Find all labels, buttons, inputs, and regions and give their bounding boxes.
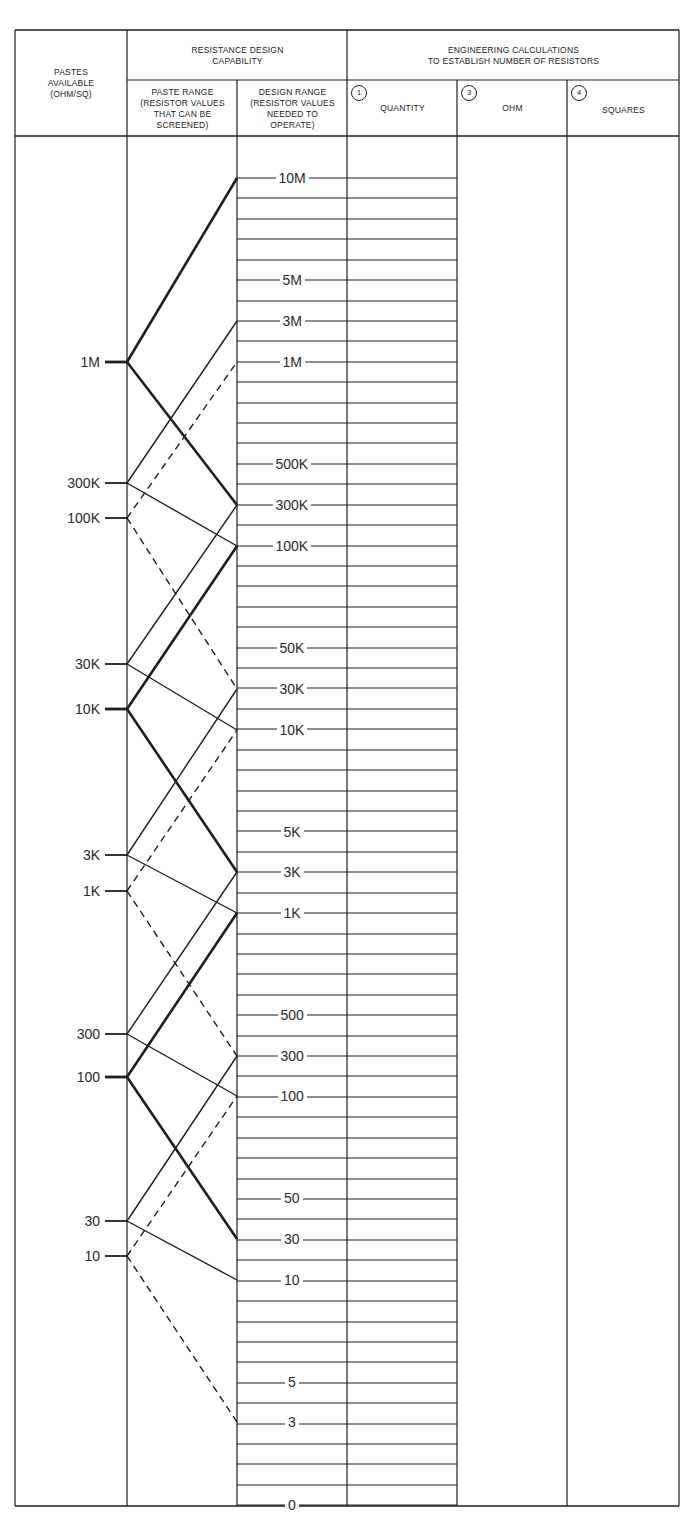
design-range-label: 3: [285, 1414, 299, 1430]
header-design-range-text: DESIGN RANGE (RESISTOR VALUES NEEDED TO …: [250, 87, 335, 131]
range-line-thin: [127, 1221, 237, 1280]
range-line-dashed: [127, 891, 237, 1056]
range-line-thin: [127, 1056, 237, 1221]
design-range-label: 3K: [281, 864, 304, 880]
design-range-label: 5M: [280, 272, 305, 288]
column-squares-label: SQUARES: [568, 105, 679, 116]
range-line-thin: [127, 1034, 237, 1096]
range-line-bold: [127, 362, 237, 505]
header-engineering-calculations: ENGINEERING CALCULATIONS TO ESTABLISH NU…: [348, 31, 679, 80]
header-pastes-available-text: PASTES AVAILABLE (OHM/SQ): [48, 67, 94, 100]
paste-value-label: 300: [50, 1026, 100, 1042]
design-range-label: 50K: [277, 640, 308, 656]
column-quantity: 1 QUANTITY: [348, 81, 457, 136]
column-ohm: 3 OHM: [458, 81, 567, 136]
paste-value-label: 10: [50, 1248, 100, 1264]
range-line-thin: [127, 872, 237, 1034]
range-line-bold: [127, 178, 237, 362]
header-design-range: DESIGN RANGE (RESISTOR VALUES NEEDED TO …: [238, 81, 347, 136]
design-range-label: 0: [285, 1497, 299, 1513]
design-range-label: 300: [278, 1048, 307, 1064]
design-range-label: 1K: [281, 905, 304, 921]
range-line-thin: [127, 855, 237, 913]
range-line-thin: [127, 689, 237, 855]
range-line-bold: [127, 709, 237, 872]
paste-value-label: 3K: [50, 847, 100, 863]
range-line-thin: [127, 505, 237, 664]
header-resistance-design-capability-text: RESISTANCE DESIGN CAPABILITY: [191, 45, 283, 67]
range-line-dashed: [127, 730, 237, 891]
design-range-label: 100: [278, 1088, 307, 1104]
column-ohm-label: OHM: [458, 103, 567, 114]
paste-value-label: 30K: [50, 656, 100, 672]
header-engineering-calculations-text: ENGINEERING CALCULATIONS TO ESTABLISH NU…: [428, 45, 599, 67]
paste-value-label: 1K: [50, 883, 100, 899]
paste-value-label: 100K: [50, 510, 100, 526]
paste-value-label: 10K: [50, 701, 100, 717]
header-pastes-available: PASTES AVAILABLE (OHM/SQ): [15, 31, 127, 136]
paste-value-label: 300K: [50, 475, 100, 491]
column-squares: 4 SQUARES: [568, 81, 679, 136]
paste-value-label: 30: [50, 1213, 100, 1229]
design-range-label: 500K: [273, 456, 312, 472]
header-paste-range: PASTE RANGE (RESISTOR VALUES THAT CAN BE…: [128, 81, 237, 136]
range-line-bold: [127, 546, 237, 709]
range-line-dashed: [127, 1256, 237, 1422]
design-range-label: 500: [278, 1007, 307, 1023]
paste-value-label: 100: [50, 1069, 100, 1085]
design-range-label: 10K: [277, 722, 308, 738]
design-range-label: 50: [281, 1190, 303, 1206]
design-range-label: 30: [281, 1231, 303, 1247]
paste-value-label: 1M: [50, 354, 100, 370]
range-line-thin: [127, 483, 237, 546]
design-range-label: 30K: [277, 681, 308, 697]
circled-number-3-icon: 3: [461, 85, 477, 101]
design-range-label: 1M: [280, 354, 305, 370]
design-range-label: 10M: [276, 170, 309, 186]
range-line-bold: [127, 1077, 237, 1239]
resistor-design-form: PASTES AVAILABLE (OHM/SQ) RESISTANCE DES…: [0, 0, 686, 1518]
design-range-label: 10: [281, 1272, 303, 1288]
nomogram-lines: [0, 0, 686, 1518]
design-range-label: 100K: [273, 538, 312, 554]
header-paste-range-text: PASTE RANGE (RESISTOR VALUES THAT CAN BE…: [140, 87, 225, 131]
circled-number-4-icon: 4: [571, 85, 587, 101]
column-quantity-label: QUANTITY: [348, 103, 457, 114]
design-range-label: 3M: [280, 313, 305, 329]
design-range-label: 5K: [281, 824, 304, 840]
design-range-label: 300K: [273, 497, 312, 513]
range-line-bold: [127, 913, 237, 1077]
range-line-thin: [127, 321, 237, 483]
range-line-dashed: [127, 1096, 237, 1256]
circled-number-1-icon: 1: [351, 85, 367, 101]
header-resistance-design-capability: RESISTANCE DESIGN CAPABILITY: [128, 31, 347, 80]
design-range-label: 5: [285, 1374, 299, 1390]
range-line-thin: [127, 664, 237, 730]
range-line-dashed: [127, 518, 237, 689]
